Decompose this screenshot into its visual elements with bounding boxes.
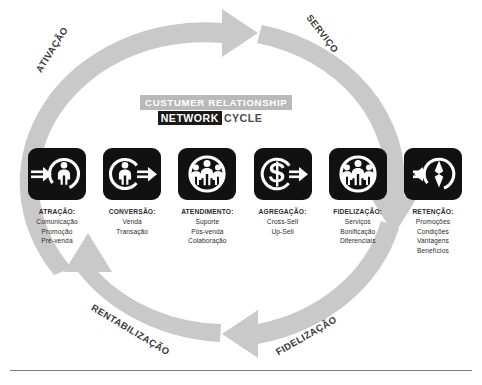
stage-caption: FIDELIZAÇÃO: Serviços Bonificação Difere… (333, 207, 382, 246)
stage-conversao[interactable]: CONVERSÃO: Venda Transação (97, 148, 167, 236)
stage-item: Serviços (333, 217, 382, 226)
stage-item: Venda (109, 217, 156, 226)
stage-atendimento[interactable]: ATENDIMENTO: Suporte Pós-venda Colaboraç… (172, 148, 242, 246)
stage-title: CONVERSÃO: (109, 207, 156, 216)
stage-item: Comunicação (36, 217, 77, 226)
stage-item: Diferenciais (333, 236, 382, 245)
stage-item: Colaboração (181, 236, 233, 245)
stage-title: RETENÇÃO: (412, 207, 453, 216)
stage-title: ATRAÇÃO: (36, 207, 77, 216)
people-group-in-circle-icon (329, 148, 387, 200)
stage-title: ATENDIMENTO: (181, 207, 233, 216)
stage-item: Pré-venda (36, 236, 77, 245)
stage-caption: AGREGAÇÃO: Cross-Sell Up-Sell (259, 207, 307, 236)
footer-divider (10, 370, 472, 371)
stage-item: Benefícios (412, 246, 453, 255)
diagram-canvas: ATIVAÇÃO SERVIÇO RENTABILIZAÇÃO FIDELIZA… (0, 0, 482, 385)
stage-caption: ATENDIMENTO: Suporte Pós-venda Colaboraç… (181, 207, 233, 246)
stage-item: Transação (109, 227, 156, 236)
compass-in-circle-arrow-left-icon (404, 148, 462, 200)
stage-fidelizacao[interactable]: FIDELIZAÇÃO: Serviços Bonificação Difere… (323, 148, 393, 246)
stage-item: Cross-Sell (259, 217, 307, 226)
stage-item: Pós-venda (181, 227, 233, 236)
stage-row: ATRAÇÃO: Comunicação Promoção Pré-venda (22, 148, 468, 255)
stage-item: Up-Sell (259, 227, 307, 236)
title-network-word: NETWORK (158, 111, 222, 125)
stage-retencao[interactable]: RETENÇÃO: Promoções Condições Vantagens … (398, 148, 468, 255)
stage-item: Promoções (412, 217, 453, 226)
stage-item: Condições (412, 227, 453, 236)
stage-item: Promoção (36, 227, 77, 236)
people-group-in-circle-icon (178, 148, 236, 200)
diagram-title: CUSTUMER RELATIONSHIP NETWORKCYCLE (140, 92, 282, 125)
stage-caption: RETENÇÃO: Promoções Condições Vantagens … (412, 207, 453, 255)
person-in-circle-arrow-in-icon (28, 148, 86, 200)
stage-caption: ATRAÇÃO: Comunicação Promoção Pré-venda (36, 207, 77, 246)
stage-atracao[interactable]: ATRAÇÃO: Comunicação Promoção Pré-venda (22, 148, 92, 246)
stage-title: AGREGAÇÃO: (259, 207, 307, 216)
title-cycle-word: CYCLE (222, 111, 264, 125)
stage-agregacao[interactable]: AGREGAÇÃO: Cross-Sell Up-Sell (248, 148, 318, 236)
title-customer-relationship: CUSTUMER RELATIONSHIP (140, 95, 292, 110)
stage-item: Vantagens (412, 236, 453, 245)
stage-item: Suporte (181, 217, 233, 226)
stage-title: FIDELIZAÇÃO: (333, 207, 382, 216)
dollar-in-circle-arrow-out-icon (254, 148, 312, 200)
stage-item: Bonificação (333, 227, 382, 236)
person-in-circle-arrow-out-icon (103, 148, 161, 200)
stage-caption: CONVERSÃO: Venda Transação (109, 207, 156, 236)
title-network-cycle: NETWORKCYCLE (140, 111, 282, 125)
